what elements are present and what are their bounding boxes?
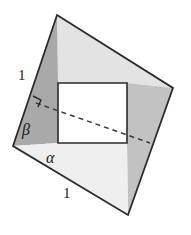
label-bottom-side-length: 1: [63, 186, 71, 201]
label-angle-alpha: α: [46, 150, 54, 166]
label-angle-beta: β: [22, 122, 30, 138]
geometry-figure: 1 1 β α: [0, 0, 191, 235]
label-left-side-length: 1: [18, 68, 26, 83]
right-dark-region: [127, 83, 173, 215]
geometry-diagram-svg: [0, 0, 191, 235]
inner-white-rectangle: [58, 83, 127, 143]
